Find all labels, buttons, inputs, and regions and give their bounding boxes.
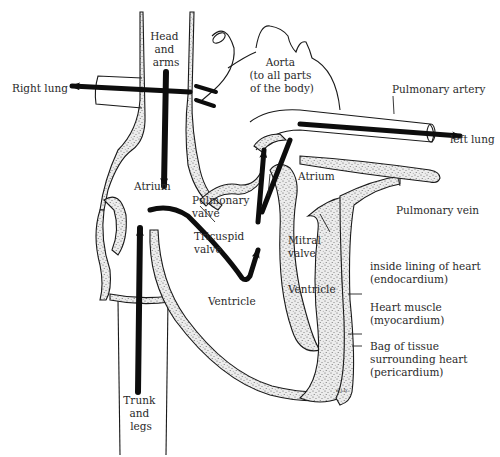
artist-signature: e.j.b. — [336, 387, 349, 394]
label-pulmonary-artery: Pulmonary artery — [392, 83, 486, 95]
label-atrium-left: Atrium — [297, 170, 335, 182]
label-tricuspid-valve: Tricuspid valve — [193, 230, 248, 255]
heart-walls — [150, 164, 400, 405]
label-endocardium: inside lining of heart (endocardium) — [370, 260, 484, 285]
right-pulmonary-branch — [95, 76, 142, 108]
label-ventricle-left: Ventricle — [287, 283, 336, 295]
label-myocardium: Heart muscle (myocardium) — [370, 301, 445, 326]
label-pericardium: Bag of tissue surrounding heart (pericar… — [370, 340, 471, 378]
label-ventricle-right: Ventricle — [207, 295, 256, 307]
heart-diagram: Head and arms Right lung Aorta (to all p… — [0, 0, 500, 457]
label-pulmonary-vein: Pulmonary vein — [396, 204, 479, 216]
label-trunk-and-legs: Trunk and legs — [123, 394, 158, 432]
label-atrium-right: Atrium — [133, 180, 171, 192]
labels: Head and arms Right lung Aorta (to all p… — [12, 30, 495, 432]
label-right-lung: Right lung — [12, 82, 68, 94]
label-head-and-arms: Head and arms — [150, 30, 182, 68]
label-pulmonary-valve: Pulmonary valve — [191, 194, 253, 219]
right-atrium-wall — [96, 197, 126, 300]
label-left-lung: left lung — [450, 133, 495, 145]
label-aorta: Aorta (to all parts of the body) — [249, 56, 314, 94]
